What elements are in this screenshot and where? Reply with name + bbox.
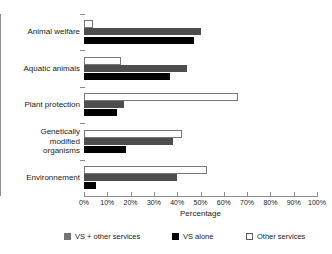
- bar: [84, 182, 96, 189]
- x-axis-tick: [247, 192, 248, 197]
- bar: [84, 65, 187, 72]
- x-axis-tick-label: 50%: [189, 198, 213, 207]
- bar: [84, 174, 177, 181]
- x-axis-tick-label: 0%: [72, 198, 96, 207]
- y-axis-tick: [80, 123, 85, 124]
- x-axis-tick-label: 20%: [119, 198, 143, 207]
- bar: [84, 166, 207, 174]
- legend-item[interactable]: Other services: [246, 232, 305, 241]
- bar-chart: 0%10%20%30%40%50%60%70%80%90%100% Animal…: [0, 0, 332, 254]
- legend-swatch-icon: [64, 233, 71, 240]
- x-axis-tick: [154, 192, 155, 197]
- x-axis-tick: [84, 192, 85, 197]
- x-axis-tick-label: 90%: [282, 198, 306, 207]
- bar: [84, 93, 238, 101]
- y-axis-tick: [80, 50, 85, 51]
- category-label: Environnement: [0, 173, 80, 183]
- x-axis-tick: [177, 192, 178, 197]
- x-axis-tick: [201, 192, 202, 197]
- y-axis-tick: [80, 14, 85, 15]
- bar: [84, 101, 124, 108]
- x-axis-tick-label: 40%: [165, 198, 189, 207]
- x-axis-tick-label: 80%: [258, 198, 282, 207]
- y-axis-tick: [80, 160, 85, 161]
- legend-swatch-icon: [246, 233, 253, 240]
- bar: [84, 73, 170, 80]
- x-axis-tick: [224, 192, 225, 197]
- legend-swatch-icon: [172, 233, 179, 240]
- x-axis-tick: [294, 192, 295, 197]
- x-axis-tick: [131, 192, 132, 197]
- category-label: Plant protection: [0, 100, 80, 110]
- x-axis-tick-label: 30%: [142, 198, 166, 207]
- bar: [84, 146, 126, 153]
- x-axis-title: Percentage: [84, 209, 317, 219]
- category-label: Genetically modified organisms: [0, 127, 80, 156]
- legend-label: VS + other services: [75, 232, 140, 241]
- bar: [84, 57, 121, 65]
- x-axis-tick-label: 10%: [95, 198, 119, 207]
- x-axis-tick-label: 100%: [305, 198, 329, 207]
- legend-label: Other services: [257, 232, 305, 241]
- y-axis-tick: [80, 87, 85, 88]
- legend-item[interactable]: VS + other services: [64, 232, 140, 241]
- x-axis-tick: [317, 192, 318, 197]
- category-label: Aquatic animals: [0, 64, 80, 74]
- bar: [84, 109, 117, 116]
- legend-label: VS alone: [183, 232, 213, 241]
- x-axis-tick-label: 70%: [235, 198, 259, 207]
- bar: [84, 20, 93, 28]
- legend-item[interactable]: VS alone: [172, 232, 213, 241]
- bar: [84, 37, 194, 44]
- bar: [84, 130, 182, 138]
- bar: [84, 28, 201, 35]
- chart-legend: VS + other servicesVS aloneOther service…: [0, 232, 332, 246]
- bar: [84, 138, 173, 145]
- x-axis-tick: [107, 192, 108, 197]
- x-axis-tick: [270, 192, 271, 197]
- x-axis-tick-label: 60%: [212, 198, 236, 207]
- category-label: Animal welfare: [0, 27, 80, 37]
